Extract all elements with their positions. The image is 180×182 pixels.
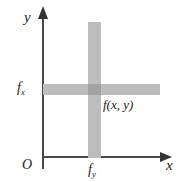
fx-label: fx <box>17 81 25 95</box>
x-axis-line <box>42 156 164 158</box>
x-axis-label: x <box>166 158 173 173</box>
partial-derivative-diagram: y x O fx fy f(x, y) <box>0 0 180 182</box>
fy-label: fy <box>88 163 96 177</box>
y-axis-label: y <box>24 10 31 25</box>
origin-label: O <box>22 158 32 172</box>
y-axis-arrowhead-icon <box>38 6 48 19</box>
horizontal-band <box>43 84 160 95</box>
fy-subscript: y <box>92 169 96 179</box>
function-label: f(x, y) <box>103 98 133 111</box>
band-intersection <box>88 84 101 95</box>
fx-subscript: x <box>21 87 25 97</box>
